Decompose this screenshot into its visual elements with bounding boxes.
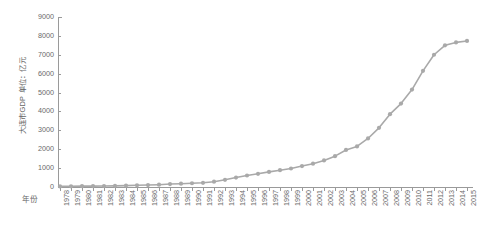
data-point-marker xyxy=(377,126,381,130)
data-point-marker xyxy=(421,69,425,73)
data-point-marker xyxy=(179,182,183,186)
x-axis-tick-label: 2001 xyxy=(316,190,323,206)
data-point-marker xyxy=(454,40,458,44)
y-axis-tick-label: 4000 xyxy=(20,107,54,114)
y-axis-tick-label: 1000 xyxy=(20,164,54,171)
y-axis-tick-label: 7000 xyxy=(20,51,54,58)
y-axis-tick-mark xyxy=(58,168,61,169)
y-axis-tick-mark xyxy=(58,93,61,94)
x-axis-tick-label: 2006 xyxy=(371,190,378,206)
y-axis-tick-label: 3000 xyxy=(20,126,54,133)
x-axis-tick-label: 2015 xyxy=(470,190,477,206)
x-axis-tick-label: 2005 xyxy=(360,190,367,206)
x-axis-title: 年份 xyxy=(22,196,38,204)
data-point-marker xyxy=(322,158,326,162)
x-axis-tick-label: 1993 xyxy=(228,190,235,206)
x-axis-tick-labels: 1978197919801981198219831984198519861987… xyxy=(58,190,478,231)
y-axis-tick-mark xyxy=(58,36,61,37)
data-point-marker xyxy=(212,180,216,184)
y-axis-tick-label: 0 xyxy=(20,183,54,190)
data-point-marker xyxy=(300,164,304,168)
data-point-marker xyxy=(190,181,194,185)
data-point-marker xyxy=(278,168,282,172)
data-point-marker xyxy=(168,182,172,186)
x-axis-tick-label: 1982 xyxy=(107,190,114,206)
x-axis-tick-label: 1991 xyxy=(206,190,213,206)
data-point-marker xyxy=(146,183,150,187)
x-axis-tick-label: 2000 xyxy=(305,190,312,206)
x-axis-tick-label: 1978 xyxy=(63,190,70,206)
y-axis-tick-label: 2000 xyxy=(20,145,54,152)
y-axis-tick-mark xyxy=(58,149,61,150)
data-point-marker xyxy=(256,172,260,176)
data-point-marker xyxy=(333,154,337,158)
data-point-marker xyxy=(289,166,293,170)
x-axis-tick-label: 1997 xyxy=(272,190,279,206)
x-axis-tick-label: 1980 xyxy=(85,190,92,206)
y-axis-tick-label: 6000 xyxy=(20,70,54,77)
x-axis-tick-label: 2012 xyxy=(437,190,444,206)
data-point-marker xyxy=(201,181,205,185)
data-point-marker xyxy=(234,175,238,179)
x-axis-tick-label: 1995 xyxy=(250,190,257,206)
x-axis-tick-label: 1989 xyxy=(184,190,191,206)
x-axis-tick-label: 1998 xyxy=(283,190,290,206)
x-axis-tick-label: 1986 xyxy=(151,190,158,206)
data-point-marker xyxy=(311,162,315,166)
data-point-marker xyxy=(432,53,436,57)
x-axis-tick-label: 1987 xyxy=(162,190,169,206)
data-point-marker xyxy=(223,178,227,182)
x-axis-tick-label: 1999 xyxy=(294,190,301,206)
gdp-line-chart: 大连市GDP 单位：亿元 900080007000600050004000300… xyxy=(0,0,491,231)
data-point-marker xyxy=(245,173,249,177)
x-axis-tick-label: 2010 xyxy=(415,190,422,206)
y-axis-tick-label: 5000 xyxy=(20,89,54,96)
data-point-marker xyxy=(157,183,161,187)
x-axis-line xyxy=(58,187,473,188)
y-axis-tick-mark xyxy=(58,111,61,112)
data-point-marker xyxy=(267,170,271,174)
data-point-marker xyxy=(443,43,447,47)
y-axis-tick-label: 9000 xyxy=(20,13,54,20)
y-axis-tick-mark xyxy=(58,74,61,75)
x-axis-tick-label: 1994 xyxy=(239,190,246,206)
data-point-marker xyxy=(388,112,392,116)
data-point-marker xyxy=(355,144,359,148)
series-path xyxy=(60,41,467,186)
data-point-marker xyxy=(344,148,348,152)
x-axis-tick-label: 2004 xyxy=(349,190,356,206)
x-axis-tick-label: 2002 xyxy=(327,190,334,206)
y-axis-tick-mark xyxy=(58,130,61,131)
x-axis-tick-label: 1985 xyxy=(140,190,147,206)
x-axis-tick-label: 1983 xyxy=(118,190,125,206)
x-axis-tick-label: 2007 xyxy=(382,190,389,206)
plot-area xyxy=(58,17,473,187)
data-point-marker xyxy=(366,136,370,140)
x-axis-tick-label: 2003 xyxy=(338,190,345,206)
y-axis-tick-mark xyxy=(58,55,61,56)
x-axis-tick-label: 1979 xyxy=(74,190,81,206)
x-axis-tick-label: 1992 xyxy=(217,190,224,206)
data-point-marker xyxy=(465,39,469,43)
x-axis-tick-label: 2013 xyxy=(448,190,455,206)
x-axis-tick-label: 1988 xyxy=(173,190,180,206)
data-point-marker xyxy=(410,87,414,91)
x-axis-tick-label: 2011 xyxy=(426,190,433,205)
series-line-gdp xyxy=(58,17,473,187)
data-point-marker xyxy=(399,101,403,105)
data-point-marker xyxy=(135,183,139,187)
y-axis-tick-label: 8000 xyxy=(20,32,54,39)
x-axis-tick-label: 1981 xyxy=(96,190,103,206)
x-axis-tick-label: 2009 xyxy=(404,190,411,206)
x-axis-tick-label: 1990 xyxy=(195,190,202,206)
x-axis-tick-label: 2014 xyxy=(459,190,466,206)
x-axis-tick-label: 1984 xyxy=(129,190,136,206)
x-axis-tick-label: 2008 xyxy=(393,190,400,206)
x-axis-tick-label: 1996 xyxy=(261,190,268,206)
